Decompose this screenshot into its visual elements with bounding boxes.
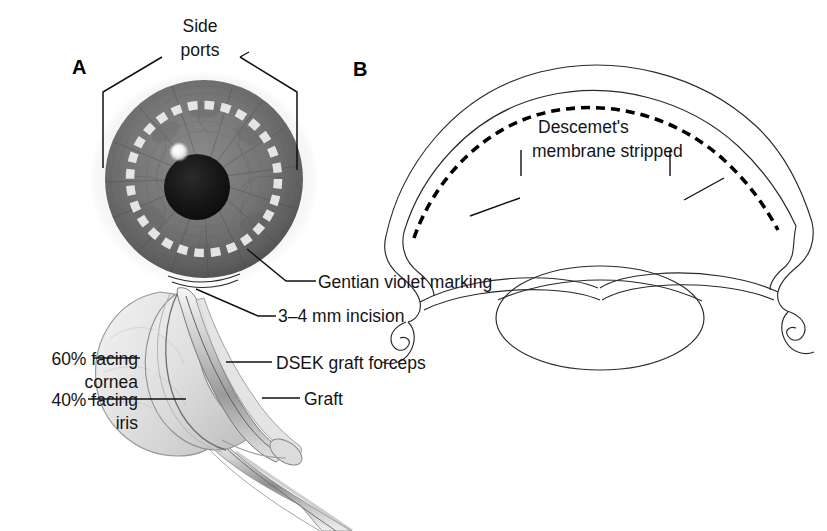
panel-b-cross-section: [382, 65, 814, 370]
label-60-facing-cornea-line1: 60% facing: [51, 349, 138, 369]
label-side-ports-line1: Side: [182, 16, 217, 36]
iris-left-posterior: [424, 290, 600, 310]
label-dsek-graft-forceps: DSEK graft forceps: [276, 353, 426, 373]
figure-illustration: A B Side ports Gentian violet marking 3–…: [0, 0, 827, 531]
label-descemets-line1: Descemet's: [538, 117, 629, 137]
lens-anterior-capsule: [498, 280, 702, 301]
iris-right-posterior: [602, 285, 774, 300]
leader-descemets-right-lower: [684, 178, 724, 200]
label-side-ports-line2: ports: [181, 40, 220, 60]
limbus-right: [778, 222, 814, 312]
pupil: [164, 154, 230, 220]
forceps-shaft-edge-lower: [206, 446, 320, 531]
label-60-facing-cornea-line2: cornea: [84, 372, 138, 392]
crystalline-lens: [496, 266, 704, 370]
label-40-facing-iris-line2: iris: [116, 413, 139, 433]
leader-side-ports: [240, 52, 249, 57]
panel-a-eye-front-view: [92, 52, 316, 316]
label-descemets-line2: membrane stripped: [532, 141, 683, 161]
label-40-facing-iris-line1: 40% facing: [51, 390, 138, 410]
panel-letter-a: A: [72, 56, 86, 78]
ciliary-body-left: [391, 322, 409, 350]
label-incision: 3–4 mm incision: [278, 306, 404, 326]
iris-right: [600, 273, 778, 292]
ciliary-body-right: [787, 312, 805, 340]
corneal-light-reflex: [171, 144, 188, 161]
illustration-canvas: A B Side ports Gentian violet marking 3–…: [0, 0, 827, 531]
leader-descemets-left-lower: [470, 198, 520, 216]
label-gentian-violet-marking: Gentian violet marking: [318, 272, 492, 292]
label-graft: Graft: [304, 389, 343, 409]
panel-letter-b: B: [353, 58, 367, 80]
